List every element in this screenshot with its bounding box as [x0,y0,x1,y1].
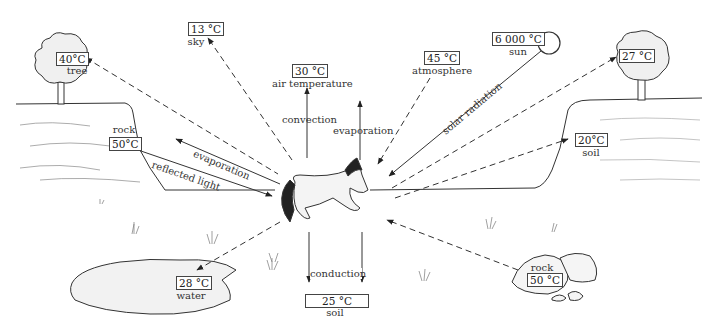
sun-label: sun [498,46,538,57]
rock-left-label: rock [112,124,136,135]
sun-temp: 6 000 °C [492,32,545,46]
tree-right-temp: 27 °C [619,49,655,63]
arrows [86,38,616,282]
air-label: air temperature [272,78,352,89]
convection-label: convection [282,114,332,125]
evaporation-up-label: evaporation [333,125,389,136]
right-tree [617,31,669,100]
right-cliff [370,98,702,190]
conduction-label: conduction [310,268,362,279]
atmosphere-temp: 45 °C [424,51,460,65]
sky-label: sky [186,36,206,47]
soil-below-temp: 25 °C [305,294,369,308]
air-temp: 30 °C [292,64,328,78]
diagram-canvas [0,0,718,329]
water-label: water [176,290,206,301]
rock-right-temp: 50 °C [527,273,563,287]
water-temp: 28 °C [176,276,212,290]
soil-below-label: soil [318,307,352,318]
rock-left-temp: 50°C [109,137,142,151]
atmosphere-label: atmosphere [412,65,468,76]
tree-left-label: tree [59,65,95,76]
rock-right-label: rock [529,262,555,273]
horse [282,158,368,222]
sky-temp: 13 °C [188,22,224,36]
soil-right-label: soil [578,147,604,158]
tree-left-temp: 40°C [56,52,89,66]
soil-right-temp: 20°C [575,133,608,147]
